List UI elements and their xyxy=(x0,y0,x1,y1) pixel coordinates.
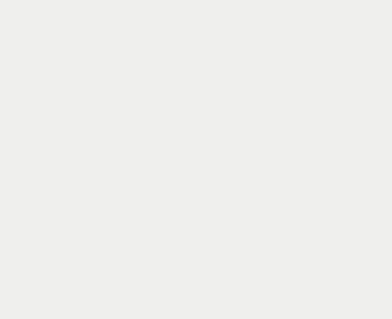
connector-lines xyxy=(0,0,392,319)
diagram-canvas xyxy=(0,0,392,319)
